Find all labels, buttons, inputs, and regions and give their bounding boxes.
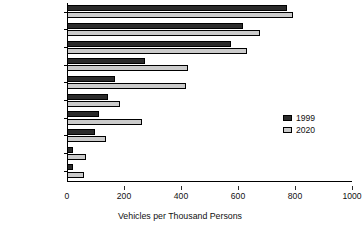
bar-2020 xyxy=(67,30,260,36)
bar-1999 xyxy=(67,147,73,153)
bar-2020 xyxy=(67,12,293,18)
legend-swatch xyxy=(283,127,292,133)
bar-group: China xyxy=(67,145,352,163)
legend-swatch xyxy=(283,115,292,121)
bar-1999 xyxy=(67,23,243,29)
legend-label: 2020 xyxy=(296,126,315,134)
bar-1999 xyxy=(67,5,287,11)
x-axis-tick xyxy=(295,186,296,190)
x-axis-tick-label: 200 xyxy=(117,192,131,201)
bar-group: Mexico xyxy=(67,74,352,92)
bar-group: Canada xyxy=(67,21,352,39)
bar-2020 xyxy=(67,154,86,160)
x-axis-tick xyxy=(238,186,239,190)
bar-group: South Korea xyxy=(67,56,352,74)
x-axis-tick xyxy=(352,186,353,190)
bar-group: FSU xyxy=(67,92,352,110)
bar-2020 xyxy=(67,136,106,142)
x-axis-tick xyxy=(124,186,125,190)
bar-2020 xyxy=(67,48,247,54)
bar-group: Japan xyxy=(67,38,352,56)
bar-1999 xyxy=(67,111,99,117)
bar-group: India xyxy=(67,162,352,180)
x-axis-tick-label: 400 xyxy=(174,192,188,201)
bar-1999 xyxy=(67,41,231,47)
legend-item: 1999 xyxy=(283,112,315,124)
bar-2020 xyxy=(67,119,142,125)
x-axis-tick-label: 800 xyxy=(288,192,302,201)
bar-1999 xyxy=(67,58,145,64)
x-axis-tick-label: 600 xyxy=(231,192,245,201)
bar-2020 xyxy=(67,172,84,178)
x-axis-title: Vehicles per Thousand Persons xyxy=(0,211,360,221)
bar-2020 xyxy=(67,65,188,71)
legend-item: 2020 xyxy=(283,124,315,136)
legend-label: 1999 xyxy=(296,114,315,122)
bar-1999 xyxy=(67,94,108,100)
bar-1999 xyxy=(67,129,95,135)
bar-group: United States xyxy=(67,3,352,21)
x-axis-tick xyxy=(181,186,182,190)
bar-2020 xyxy=(67,83,186,89)
chart-legend: 19992020 xyxy=(283,112,315,136)
x-axis-tick-label: 1000 xyxy=(342,192,361,201)
bar-1999 xyxy=(67,76,115,82)
plot-area: United StatesCanadaJapanSouth KoreaMexic… xyxy=(67,3,352,180)
x-axis-line xyxy=(67,181,352,182)
bar-2020 xyxy=(67,101,120,107)
bar-1999 xyxy=(67,164,73,170)
x-axis-tick-label: 0 xyxy=(65,192,70,201)
